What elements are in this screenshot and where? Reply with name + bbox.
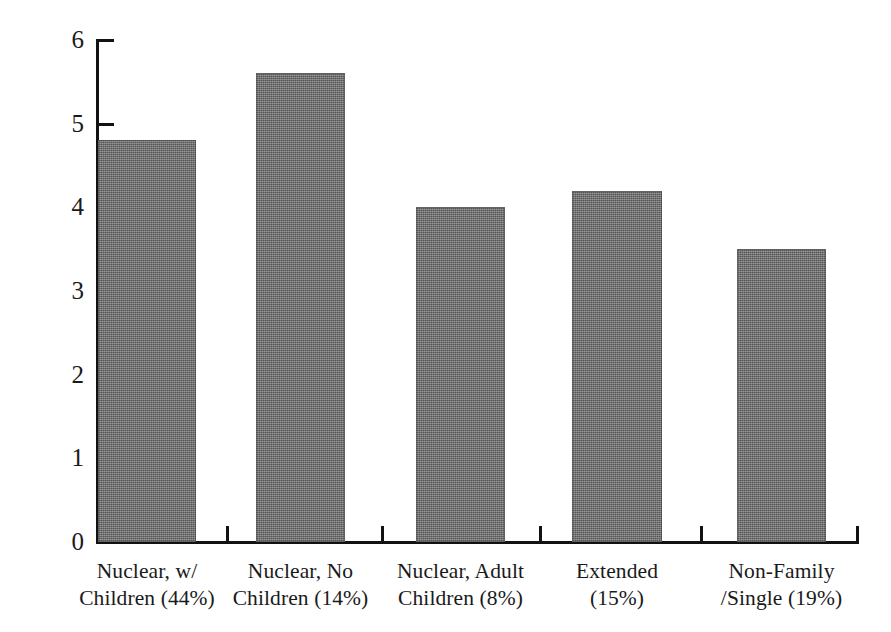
bar (737, 249, 826, 542)
category-label-line: Non-Family (682, 558, 882, 585)
y-axis-tick-label: 2 (38, 362, 84, 387)
bar (98, 140, 196, 542)
bar (416, 207, 505, 542)
y-axis-tick-label: 6 (38, 27, 84, 52)
y-axis-tick-label: 4 (38, 194, 84, 219)
y-axis-tick-label: 5 (38, 111, 84, 136)
bar-chart: 6543210 Nuclear, w/Children (44%)Nuclear… (0, 0, 891, 632)
y-axis-tick-label: 1 (38, 445, 84, 470)
category-label-line: /Single (19%) (682, 585, 882, 612)
bars-container (98, 40, 858, 542)
x-axis-category-label: Non-Family/Single (19%) (682, 558, 882, 612)
bar (572, 191, 662, 542)
y-axis-tick-label: 0 (38, 529, 84, 554)
bar (256, 73, 345, 542)
y-axis-tick-label: 3 (38, 278, 84, 303)
